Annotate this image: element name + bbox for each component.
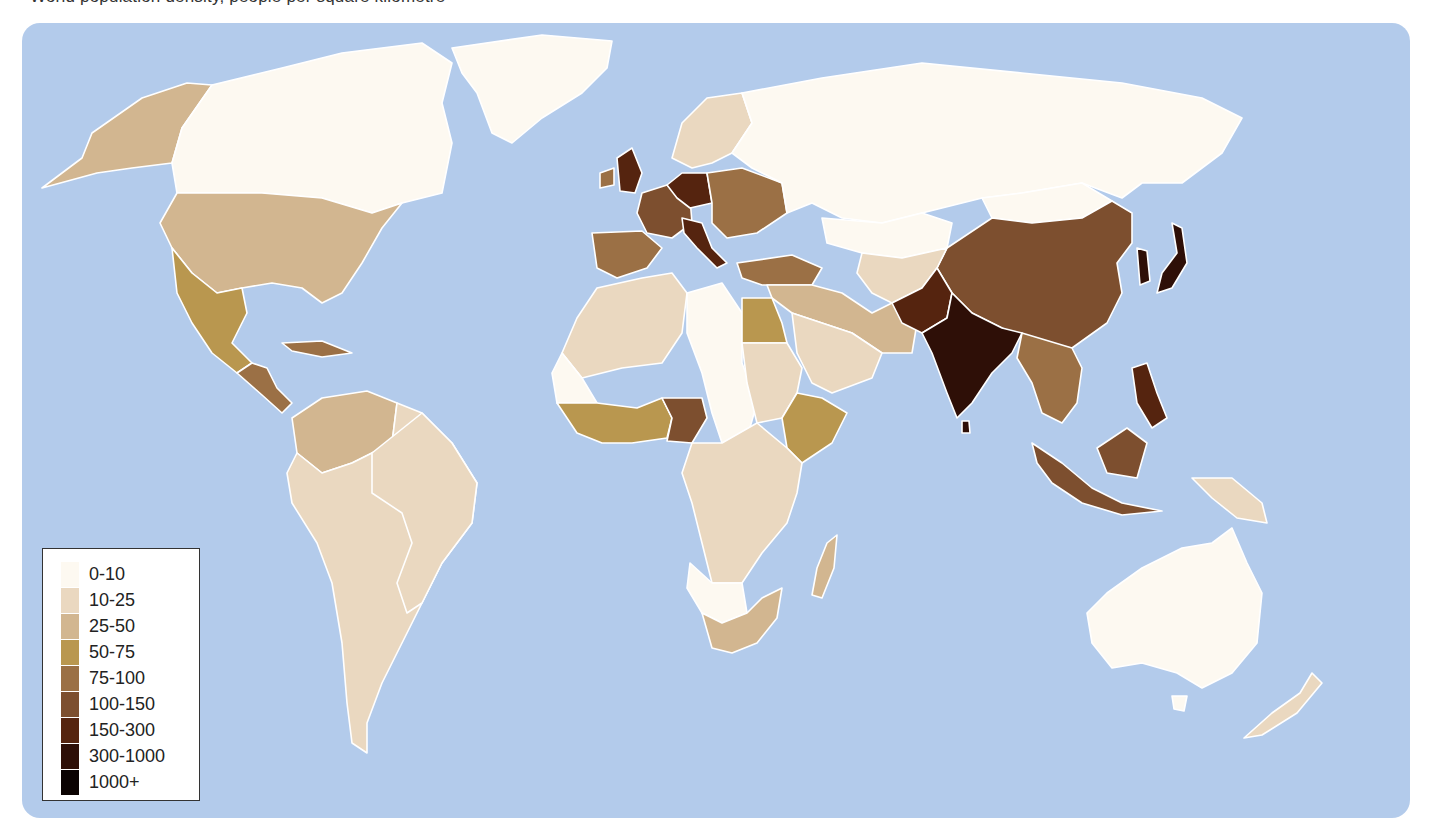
legend-label: 100-150: [89, 695, 155, 713]
legend-swatch: [61, 640, 79, 665]
region-korea: [1137, 248, 1150, 285]
legend-swatch: [61, 562, 79, 587]
legend-item: 150-300: [61, 717, 199, 743]
legend-item: 100-150: [61, 691, 199, 717]
legend-label: 300-1000: [89, 747, 165, 765]
region-philippines: [1132, 363, 1167, 428]
legend-label: 10-25: [89, 591, 135, 609]
region-new-zealand: [1244, 673, 1322, 738]
legend-label: 75-100: [89, 669, 145, 687]
region-borneo: [1097, 428, 1147, 478]
region-papua: [1192, 478, 1267, 523]
region-tasmania: [1172, 696, 1187, 711]
legend: 0-10 10-25 25-50 50-75 75-100 100-150 15…: [42, 548, 200, 801]
legend-item: 25-50: [61, 613, 199, 639]
legend-swatch: [61, 744, 79, 769]
region-central-america: [237, 363, 292, 413]
region-greenland: [452, 35, 612, 143]
region-iberia: [592, 231, 662, 278]
region-japan: [1157, 223, 1187, 293]
region-ireland: [600, 168, 614, 188]
legend-item: 1000+: [61, 769, 199, 795]
legend-label: 150-300: [89, 721, 155, 739]
legend-item: 75-100: [61, 665, 199, 691]
region-uk: [617, 148, 642, 193]
legend-swatch: [61, 692, 79, 717]
legend-swatch: [61, 770, 79, 795]
world-map: [22, 23, 1410, 818]
region-central-africa: [682, 423, 802, 583]
legend-item: 300-1000: [61, 743, 199, 769]
region-north-africa-west: [562, 273, 687, 378]
legend-swatch: [61, 614, 79, 639]
legend-swatch: [61, 666, 79, 691]
region-australia: [1087, 528, 1262, 688]
legend-swatch: [61, 718, 79, 743]
legend-label: 50-75: [89, 643, 135, 661]
legend-label: 0-10: [89, 565, 125, 583]
map-caption: World population density, people per squ…: [30, 0, 445, 7]
legend-item: 50-75: [61, 639, 199, 665]
region-sri-lanka: [962, 421, 970, 433]
region-canada: [172, 43, 452, 213]
world-map-svg: [22, 23, 1410, 818]
region-caribbean: [282, 341, 352, 357]
legend-item: 10-25: [61, 587, 199, 613]
legend-swatch: [61, 588, 79, 613]
region-turkey: [737, 255, 822, 285]
region-west-africa: [557, 398, 672, 443]
legend-label: 25-50: [89, 617, 135, 635]
region-madagascar: [812, 535, 837, 598]
legend-label: 1000+: [89, 773, 140, 791]
legend-item: 0-10: [61, 561, 199, 587]
